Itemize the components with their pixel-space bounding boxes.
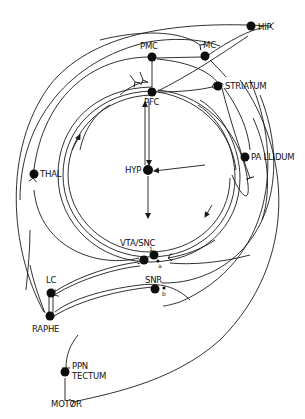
label-tectum: TECTUM bbox=[71, 371, 106, 381]
neural-circuit-diagram: HIP PMC MC STRIATUM PFC THAL HYP PA LLID… bbox=[0, 0, 305, 419]
node-mc bbox=[201, 52, 210, 61]
label-b: b bbox=[162, 290, 166, 297]
label-pmc: PMC bbox=[140, 41, 158, 51]
nodes bbox=[30, 22, 256, 377]
label-striatum: STRIATUM bbox=[225, 81, 266, 91]
node-hip bbox=[247, 22, 256, 31]
node-snr bbox=[151, 285, 160, 294]
node-striatum bbox=[214, 82, 223, 91]
inner-ring bbox=[58, 87, 248, 262]
label-a: a bbox=[158, 262, 162, 269]
label-ppn: PPN bbox=[72, 361, 88, 371]
node-ppn bbox=[61, 368, 70, 377]
label-vta-1: 1 bbox=[149, 245, 153, 252]
label-hip: HIP bbox=[258, 22, 271, 32]
node-pallidum bbox=[241, 153, 250, 162]
hyp-connections bbox=[145, 102, 205, 218]
node-hyp bbox=[143, 165, 153, 175]
node-raphe bbox=[46, 312, 55, 321]
label-thal: THAL bbox=[39, 169, 62, 179]
label-motor: MOTOR bbox=[51, 399, 82, 409]
label-snr: SNR bbox=[145, 275, 162, 285]
node-pmc bbox=[148, 53, 157, 62]
label-mc: MC bbox=[203, 40, 216, 50]
cortical-connections bbox=[100, 28, 262, 178]
label-raphe: RAPHE bbox=[32, 324, 59, 334]
label-hyp: HYP bbox=[125, 165, 141, 175]
node-lc bbox=[47, 289, 56, 298]
node-thal bbox=[30, 170, 39, 179]
label-pallidum: PA LLIDUM bbox=[251, 152, 294, 162]
label-pfc: PFC bbox=[144, 97, 160, 107]
node-pfc bbox=[148, 88, 157, 97]
node-vta-2 bbox=[140, 256, 149, 265]
label-vta-2: 2 bbox=[137, 258, 141, 265]
label-lc: LC bbox=[46, 275, 57, 285]
